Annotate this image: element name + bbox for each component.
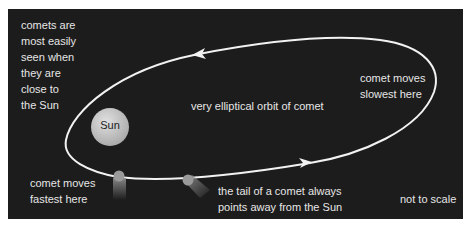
slowest-label: comet moves slowest here	[360, 70, 425, 102]
fastest-label: comet moves fastest here	[30, 175, 95, 207]
tail-note: the tail of a comet always points away f…	[218, 183, 342, 215]
sun-label: Sun	[90, 119, 130, 131]
visibility-note: comets are most easily seen when they ar…	[21, 17, 76, 113]
comet-fast-icon	[113, 171, 126, 201]
orbit-label: very elliptical orbit of comet	[191, 98, 324, 114]
scale-note: not to scale	[400, 191, 456, 207]
